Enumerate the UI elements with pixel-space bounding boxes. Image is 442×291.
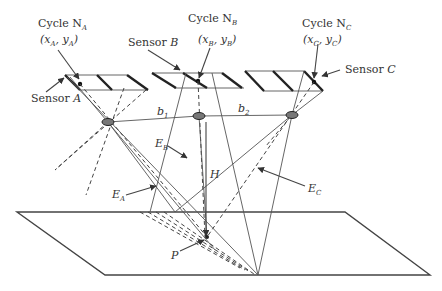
cycle-c-coords: (xC, yC)	[303, 33, 342, 48]
baseline-b2-label: b2	[238, 102, 250, 117]
ground-point-label: P	[170, 249, 179, 262]
sensor-a-leader	[46, 78, 64, 92]
ray-a-leader	[126, 186, 156, 195]
lens-b	[193, 113, 205, 120]
ray-b-leader	[168, 146, 187, 158]
sensor-b-label: Sensor B	[128, 36, 178, 49]
sensor-a-label: Sensor A	[31, 92, 81, 105]
lens-c	[286, 112, 298, 119]
ray-ec-label: EC	[307, 182, 322, 197]
sensor-b-leader	[148, 50, 180, 70]
cycle-c-label: Cycle NC	[302, 17, 352, 32]
ray-ea-label: EA	[111, 188, 125, 203]
height-label: H	[209, 168, 220, 181]
cycle-b-coords: (xB, yB)	[198, 33, 236, 48]
ray-c-leader	[258, 168, 305, 186]
multi-sensor-geometry-diagram: Cycle NA (xA, yA) Cycle NB (xB, yB) Cycl…	[0, 0, 442, 291]
cycle-b-leader	[199, 48, 210, 78]
baseline-b1	[108, 116, 199, 122]
cycle-c-leader	[314, 44, 318, 78]
baseline-b1-label: b1	[157, 105, 169, 120]
cycle-a-label: Cycle NA	[38, 17, 87, 32]
sensor-c-frame	[245, 71, 323, 91]
ground-point-p-marker	[205, 235, 209, 239]
sensor-c-leader	[322, 70, 340, 76]
cycle-a-coords: (xA, yA)	[40, 33, 78, 48]
sensor-c-label: Sensor C	[345, 63, 396, 76]
ray-eb-label: EB	[154, 137, 168, 152]
lens-a	[102, 119, 114, 126]
sensor-b-frame	[152, 73, 244, 88]
ground-plane	[17, 212, 430, 275]
cycle-b-label: Cycle NB	[188, 12, 237, 27]
